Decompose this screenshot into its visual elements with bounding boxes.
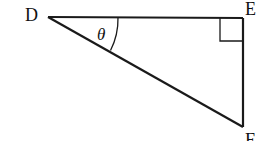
vertex-label-f: F (245, 130, 255, 141)
triangle-diagram: D E F θ (0, 0, 268, 141)
side-de (48, 17, 243, 18)
vertex-label-d: D (25, 5, 38, 25)
side-df (48, 17, 243, 127)
vertex-label-e: E (245, 0, 256, 19)
angle-label-theta: θ (97, 25, 105, 44)
angle-arc-theta (111, 17, 119, 50)
right-angle-marker (220, 18, 243, 41)
